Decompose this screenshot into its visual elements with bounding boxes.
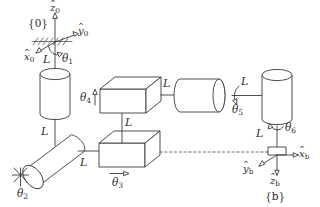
theta1-rotation-arrow <box>49 47 63 57</box>
joint-label-theta2: θ2 <box>17 188 28 200</box>
theta1-subscript: 1 <box>68 57 73 66</box>
joint1-cylinder <box>40 68 70 119</box>
x0-symbol: x <box>24 52 30 62</box>
joint2-cylinder <box>18 135 84 193</box>
axis-label-y0: y0 <box>78 26 88 37</box>
zb-symbol: z <box>270 176 275 186</box>
z0-symbol: z <box>50 3 55 13</box>
body-frame-label: {b} <box>265 191 285 202</box>
theta5-subscript: 5 <box>238 108 243 117</box>
xb-subscript: b <box>305 152 310 161</box>
z0-subscript: 0 <box>55 6 60 15</box>
link-label-joint6-to-body: L <box>256 128 263 139</box>
axis-label-xb: xb <box>299 149 309 160</box>
theta4-direction-arrow <box>93 89 97 105</box>
joint-label-theta1: θ1 <box>62 53 73 65</box>
joint-label-theta3: θ3 <box>112 177 123 189</box>
joint-label-theta6: θ6 <box>285 122 296 134</box>
y0-symbol: y <box>78 26 84 36</box>
y0-subscript: 0 <box>84 29 89 38</box>
theta6-subscript: 6 <box>291 126 296 135</box>
body-frame-axes <box>259 153 299 176</box>
joint5-cylinder <box>174 79 225 112</box>
theta2-subscript: 2 <box>23 192 28 201</box>
joint-label-theta4: θ4 <box>80 92 91 104</box>
yb-subscript: b <box>249 167 254 176</box>
theta4-subscript: 4 <box>86 96 91 105</box>
link-label-base-to-joint1: L <box>43 54 50 65</box>
link-label-joint1-to-joint2: L <box>41 126 48 137</box>
end-effector-plate <box>268 147 286 155</box>
joint-label-theta5: θ5 <box>232 104 243 116</box>
theta3-subscript: 3 <box>118 181 123 190</box>
xb-symbol: x <box>299 149 305 159</box>
axis-label-zb: zb <box>270 176 280 187</box>
x0-subscript: 0 <box>30 55 35 64</box>
joint3-box <box>99 131 160 167</box>
axis-label-x0: x0 <box>24 52 34 63</box>
yb-symbol: y <box>243 164 249 174</box>
axis-label-z0: z0 <box>50 3 60 14</box>
base-frame-label: {0} <box>28 18 48 29</box>
link-label-joint4-to-joint5: L <box>163 78 170 89</box>
axis-label-yb: yb <box>243 164 253 175</box>
link-label-joint2-to-joint3: L <box>80 157 87 168</box>
joint6-cylinder <box>262 69 292 124</box>
joint4-box <box>100 77 161 113</box>
robot-arm-kinematic-diagram: {0} z0 y0 x0 L θ1 L θ2 L θ3 L θ4 L θ5 L … <box>0 0 320 207</box>
link-label-joint3-to-joint4: L <box>125 117 132 128</box>
zb-subscript: b <box>275 179 280 188</box>
link-label-joint5-to-joint6: L <box>241 76 248 87</box>
